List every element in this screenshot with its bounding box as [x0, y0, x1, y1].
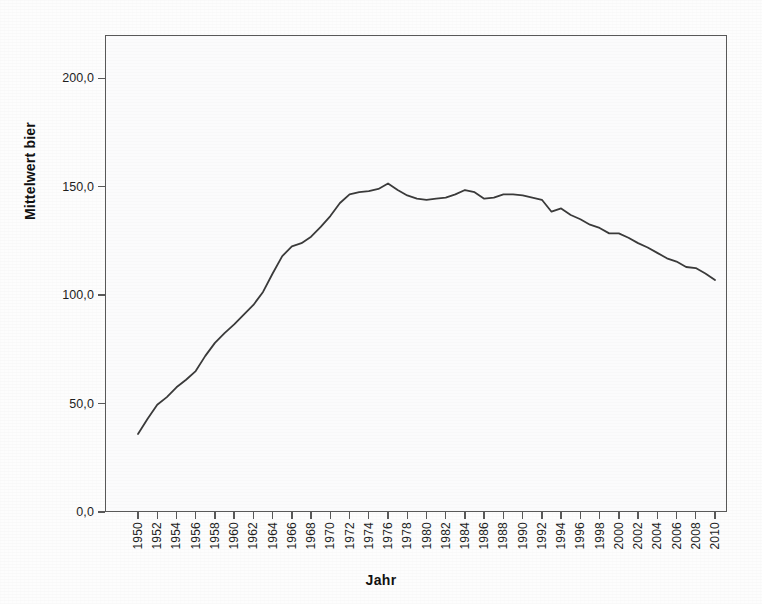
- x-axis-tick-label: 1998: [593, 522, 607, 550]
- x-axis-tick: 1958: [208, 512, 222, 550]
- x-axis-tick: 2008: [689, 512, 703, 550]
- x-axis-tick-label: 1984: [458, 522, 472, 550]
- x-axis-tick: 1960: [227, 512, 241, 550]
- x-axis-tick-label: 2000: [612, 522, 626, 550]
- x-axis-tick-label: 1952: [150, 522, 164, 550]
- x-axis-tick: 1968: [304, 512, 318, 550]
- x-axis-tick-label: 1970: [323, 522, 337, 550]
- x-axis-tick-mark: [176, 512, 177, 519]
- x-axis-tick-label: 1950: [131, 522, 145, 550]
- x-axis-tick-label: 1990: [516, 522, 530, 550]
- x-axis-tick: 1998: [593, 512, 607, 550]
- x-axis-tick-mark: [695, 512, 696, 519]
- x-axis-tick-label: 1988: [496, 522, 510, 550]
- x-axis-tick-label: 1966: [285, 522, 299, 550]
- x-axis-tick-mark: [291, 512, 292, 519]
- x-axis-tick: 1962: [246, 512, 260, 550]
- x-axis-tick: 1970: [323, 512, 337, 550]
- x-axis-tick: 2000: [612, 512, 626, 550]
- x-axis-tick-label: 1954: [169, 522, 183, 550]
- x-axis-tick: 1950: [131, 512, 145, 550]
- scanned-page: 0,050,0100,0150,0200,0 Mittelwert bier 1…: [0, 0, 762, 604]
- x-axis-tick: 1986: [477, 512, 491, 550]
- x-axis-tick-mark: [253, 512, 254, 519]
- data-series-layer: [105, 35, 727, 512]
- x-axis-tick-mark: [522, 512, 523, 519]
- x-axis-tick-mark: [541, 512, 542, 519]
- x-axis-tick: 1952: [150, 512, 164, 550]
- x-axis-tick: 1976: [381, 512, 395, 550]
- x-axis-tick: 1980: [420, 512, 434, 550]
- y-axis-tick-mark: [98, 403, 105, 404]
- x-axis-tick-label: 1976: [381, 522, 395, 550]
- x-axis-tick-mark: [137, 512, 138, 519]
- x-axis-tick-mark: [157, 512, 158, 519]
- x-axis-title: Jahr: [0, 572, 762, 588]
- line-chart-figure: 0,050,0100,0150,0200,0 Mittelwert bier 1…: [0, 0, 762, 604]
- x-axis-tick-label: 1960: [227, 522, 241, 550]
- x-axis-tick-mark: [387, 512, 388, 519]
- x-axis-tick: 1992: [535, 512, 549, 550]
- x-axis-tick-label: 1986: [477, 522, 491, 550]
- x-axis-tick: 2006: [670, 512, 684, 550]
- x-axis-tick: 1978: [400, 512, 414, 550]
- x-axis-tick-label: 2010: [708, 522, 722, 550]
- x-axis-tick: 1996: [573, 512, 587, 550]
- x-axis-tick-label: 1980: [420, 522, 434, 550]
- x-axis-tick-label: 1974: [362, 522, 376, 550]
- x-axis-tick-label: 1958: [208, 522, 222, 550]
- x-axis-tick-label: 1992: [535, 522, 549, 550]
- x-axis-tick: 1988: [496, 512, 510, 550]
- x-axis-tick: 2010: [708, 512, 722, 550]
- x-axis-tick-label: 2002: [631, 522, 645, 550]
- y-axis-tick-mark: [98, 78, 105, 79]
- x-axis-tick-mark: [464, 512, 465, 519]
- x-axis-tick-label: 2008: [689, 522, 703, 550]
- x-axis-tick: 1954: [169, 512, 183, 550]
- x-axis-tick-mark: [233, 512, 234, 519]
- y-axis-tick-label: 100,0: [62, 288, 94, 302]
- x-axis-tick: 2002: [631, 512, 645, 550]
- x-axis-tick-mark: [426, 512, 427, 519]
- x-axis-tick: 2004: [650, 512, 664, 550]
- x-axis-tick-mark: [714, 512, 715, 519]
- series-line-mittelwert-bier: [138, 184, 715, 434]
- x-axis-tick-mark: [445, 512, 446, 519]
- x-axis-tick-label: 1962: [246, 522, 260, 550]
- y-axis-tick-mark: [98, 294, 105, 295]
- y-axis-tick-label: 150,0: [62, 179, 94, 193]
- x-axis-tick: 1964: [266, 512, 280, 550]
- x-axis-tick-mark: [657, 512, 658, 519]
- x-axis-tick-mark: [195, 512, 196, 519]
- x-axis-tick-mark: [407, 512, 408, 519]
- x-axis-tick: 1972: [343, 512, 357, 550]
- x-axis-tick: 1966: [285, 512, 299, 550]
- x-axis-tick-label: 2004: [650, 522, 664, 550]
- x-axis-tick-label: 1956: [189, 522, 203, 550]
- x-axis-tick: 1956: [189, 512, 203, 550]
- y-axis-tick-label: 50,0: [69, 396, 94, 410]
- x-axis-tick-mark: [272, 512, 273, 519]
- x-axis-tick-mark: [637, 512, 638, 519]
- x-axis-tick-label: 1978: [400, 522, 414, 550]
- x-axis-tick-label: 1968: [304, 522, 318, 550]
- x-axis-tick-label: 1972: [343, 522, 357, 550]
- x-axis-tick-mark: [330, 512, 331, 519]
- x-axis-tick-mark: [599, 512, 600, 519]
- x-axis-tick-mark: [676, 512, 677, 519]
- x-axis-tick: 1974: [362, 512, 376, 550]
- x-axis-tick-mark: [349, 512, 350, 519]
- y-axis-tick-mark: [98, 186, 105, 187]
- x-axis-tick: 1982: [439, 512, 453, 550]
- x-axis-tick-label: 1982: [439, 522, 453, 550]
- x-axis-tick-mark: [310, 512, 311, 519]
- x-axis-tick-mark: [618, 512, 619, 519]
- y-axis-tick-label: 200,0: [62, 71, 94, 85]
- x-axis-tick-mark: [503, 512, 504, 519]
- x-axis-tick: 1994: [554, 512, 568, 550]
- x-axis-tick-label: 1994: [554, 522, 568, 550]
- y-axis-title: Mittelwert bier: [22, 20, 38, 220]
- x-axis-tick: 1984: [458, 512, 472, 550]
- x-axis-tick-mark: [368, 512, 369, 519]
- x-axis-tick-label: 1964: [266, 522, 280, 550]
